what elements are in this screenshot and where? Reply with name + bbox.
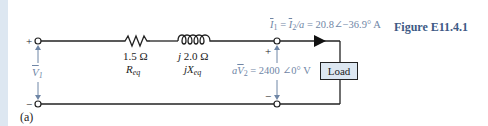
output-terminal-top <box>274 38 280 44</box>
resistor-name: Req <box>126 64 140 77</box>
circuit-schematic <box>0 0 488 126</box>
inductor-value: j 2.0 Ω <box>178 51 209 62</box>
v1-label: V1 <box>32 67 43 80</box>
current-arrow-icon <box>314 35 326 47</box>
current-annotation: I1 = I2/a = 20.8∠−36.9° A <box>270 20 381 32</box>
inductor-name: jXeq <box>184 64 201 77</box>
inductor-symbol <box>178 35 212 44</box>
output-plus-sign: + <box>265 46 271 57</box>
load-box: Load <box>320 62 358 80</box>
part-label: (a) <box>20 111 33 123</box>
output-terminal-bottom <box>274 101 280 107</box>
load-label: Load <box>328 65 351 77</box>
figure-title: Figure E11.4.1 <box>394 20 468 35</box>
resistor-symbol <box>122 36 150 46</box>
output-minus-sign: − <box>265 91 271 102</box>
input-minus-sign: − <box>26 99 32 110</box>
v2-label: aV2 = 2400 ∠0° V <box>232 66 311 78</box>
input-terminal-top <box>35 38 41 44</box>
input-plus-sign: + <box>26 36 32 47</box>
resistor-value: 1.5 Ω <box>123 51 148 62</box>
input-terminal-bottom <box>35 101 41 107</box>
